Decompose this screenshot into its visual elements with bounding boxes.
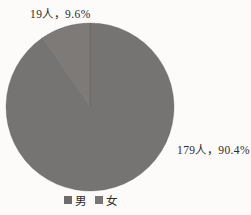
legend-label-male: 男 [75, 192, 86, 208]
legend-item-male: 男 [64, 192, 86, 208]
legend-item-female: 女 [95, 192, 117, 208]
pie-chart: 19人，9.6% 179人，90.4% 男 女 [0, 0, 251, 215]
data-label-male: 179人，90.4% [177, 141, 250, 157]
legend-swatch-male-icon [64, 196, 72, 204]
legend-label-female: 女 [106, 192, 117, 208]
legend-swatch-female-icon [95, 196, 103, 204]
data-label-female: 19人，9.6% [30, 5, 91, 21]
pie-plot-area [0, 0, 251, 215]
legend: 男 女 [0, 192, 180, 208]
